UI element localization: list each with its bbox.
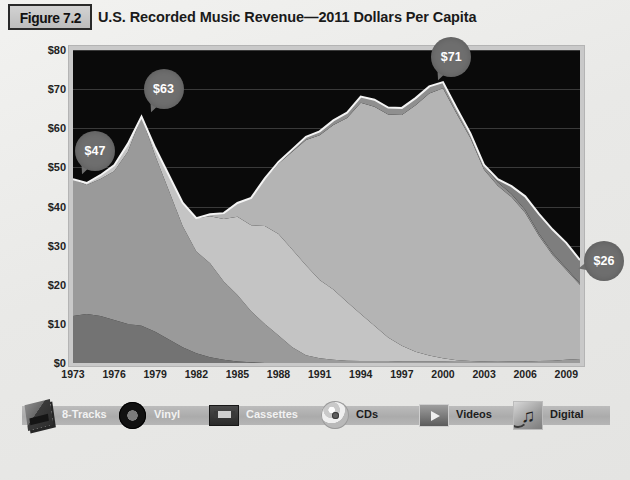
legend-item-label: Digital (550, 408, 584, 420)
legend-item-label: CDs (356, 408, 378, 420)
legend-item-label: Videos (456, 408, 492, 420)
legend-item-label: 8-Tracks (62, 408, 107, 420)
y-axis-tick-label: $20 (26, 279, 66, 291)
video-play-icon (418, 399, 450, 431)
x-axis-tick-label: 1988 (267, 368, 290, 380)
data-callout: $47 (75, 131, 115, 171)
callout-value-label: $71 (431, 37, 471, 77)
x-axis-tick-label: 1991 (308, 368, 331, 380)
eight-track-cartridge-icon-shape (25, 399, 54, 431)
callout-value-label: $47 (75, 131, 115, 171)
y-axis-tick-label: $10 (26, 318, 66, 330)
y-axis-tick-label: $50 (26, 161, 66, 173)
x-axis: 1973197619791982198519881991199419972000… (73, 368, 580, 386)
figure-header: Figure 7.2 U.S. Recorded Music Revenue—2… (0, 0, 630, 38)
figure-number-label: Figure 7.2 (19, 9, 81, 26)
legend-item-label: Cassettes (246, 408, 298, 420)
digital-music-note-icon (512, 399, 544, 431)
y-axis-tick-label: $30 (26, 240, 66, 252)
vinyl-record-icon-shape (119, 402, 146, 429)
data-callout: $26 (584, 241, 624, 281)
digital-music-note-icon-shape (513, 401, 543, 430)
data-callout: $63 (144, 69, 184, 109)
x-axis-tick-label: 1994 (349, 368, 372, 380)
cassette-tape-icon (208, 399, 240, 431)
callout-value-label: $63 (144, 69, 184, 109)
x-axis-tick-label: 1976 (102, 368, 125, 380)
x-axis-tick-label: 1985 (226, 368, 249, 380)
legend-item-label: Vinyl (154, 408, 180, 420)
chart-legend: 8-TracksVinylCassettesCDsVideosDigital (0, 398, 630, 432)
x-axis-tick-label: 1997 (390, 368, 413, 380)
video-play-icon-shape (419, 404, 449, 427)
y-axis-tick-label: $60 (26, 122, 66, 134)
x-axis-tick-label: 1973 (61, 368, 84, 380)
x-axis-tick-label: 2003 (472, 368, 495, 380)
x-axis-tick-label: 1979 (144, 368, 167, 380)
x-axis-tick-label: 2000 (431, 368, 454, 380)
figure-number-badge: Figure 7.2 (8, 4, 92, 30)
callout-value-label: $26 (584, 241, 624, 281)
eight-track-cartridge-icon (24, 399, 56, 431)
y-axis-tick-label: $40 (26, 201, 66, 213)
compact-disc-icon (318, 399, 350, 431)
y-axis-tick-label: $70 (26, 83, 66, 95)
data-callout: $71 (431, 37, 471, 77)
cassette-tape-icon-shape (209, 405, 239, 426)
chart-container: $0$10$20$30$40$50$60$70$80 1973197619791… (0, 38, 630, 383)
y-axis: $0$10$20$30$40$50$60$70$80 (20, 50, 66, 363)
x-axis-tick-label: 2006 (514, 368, 537, 380)
figure-title: U.S. Recorded Music Revenue—2011 Dollars… (98, 9, 477, 25)
x-axis-tick-label: 2009 (555, 368, 578, 380)
y-axis-tick-label: $0 (26, 357, 66, 369)
x-axis-tick-label: 1982 (185, 368, 208, 380)
compact-disc-icon-shape (321, 401, 349, 429)
vinyl-record-icon (116, 399, 148, 431)
figure-page: Figure 7.2 U.S. Recorded Music Revenue—2… (0, 0, 630, 480)
y-axis-tick-label: $80 (26, 44, 66, 56)
